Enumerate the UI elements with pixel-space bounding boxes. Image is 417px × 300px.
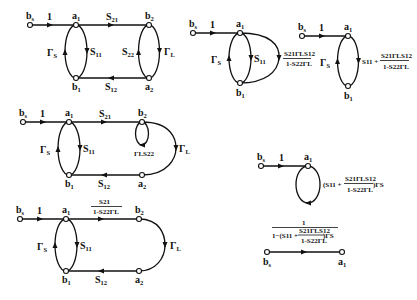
arrow-right-icon: [301, 250, 307, 255]
label-a2: a2: [138, 178, 146, 190]
label-a1: a1: [236, 18, 244, 30]
label-loop-prefix: (S11 +: [323, 181, 342, 189]
label-a2: a2: [145, 81, 153, 93]
label-b2: b2: [145, 10, 154, 22]
label-sum-numerator: S21ΓLS12: [381, 52, 412, 60]
label-S21-denominator: 1-S22ΓL: [93, 208, 119, 216]
label-a1: a1: [65, 107, 73, 119]
arrow-down-icon: [78, 145, 83, 151]
label-self-loop-gain: ΓLS22: [134, 150, 155, 158]
loop-a1-b1: [55, 219, 77, 271]
arrow-down-icon: [75, 242, 80, 248]
arrow-right-icon: [47, 23, 53, 28]
label-GammaS: ΓS: [211, 54, 221, 66]
arrow-left-icon: [101, 173, 107, 178]
node-b1: [238, 81, 243, 86]
label-S22: S22: [122, 46, 134, 58]
label-gain-1: 1: [319, 22, 324, 33]
loop-a1-b1: [338, 36, 359, 86]
node-a2: [147, 76, 152, 81]
arrow-right-icon: [319, 34, 325, 39]
arrow-right-icon: [98, 217, 104, 222]
node-a1: [64, 217, 69, 222]
arrow-right-icon: [210, 31, 216, 36]
self-loop-b2: [136, 122, 149, 145]
arrow-left-icon: [108, 76, 114, 81]
node-a1: [74, 23, 79, 28]
label-GammaS: ΓS: [47, 47, 57, 59]
label-S11: S11: [83, 143, 95, 155]
label-S11: S11: [90, 46, 102, 58]
arrow-up-icon: [53, 242, 58, 248]
node-b1: [67, 173, 72, 178]
loop-b2-a2: [139, 25, 160, 78]
self-loop-a1: [296, 166, 320, 203]
label-GammaS: ΓS: [37, 241, 47, 253]
label-b1: b1: [65, 178, 74, 190]
label-GammaL: ΓL: [179, 143, 190, 155]
arrow-down-icon: [174, 145, 179, 151]
label-gain-1: 1: [210, 19, 215, 30]
label-bs: bs: [298, 21, 307, 33]
node-bs: [18, 217, 23, 222]
label-S21-numerator: S21: [99, 198, 110, 206]
node-a1: [306, 164, 311, 169]
label-transfer-den-suffix: )ΓS: [323, 232, 334, 240]
arrow-down-icon: [163, 242, 168, 248]
node-a1: [340, 250, 345, 255]
diagram-final-transfer: 1 1−(S11 + S21ΓLS12 1-S22ΓL )ΓS bs a1: [263, 219, 346, 268]
label-loop-denominator: 1-S22ΓL: [347, 186, 373, 194]
label-gain-1: 1: [40, 108, 45, 119]
label-a1: a1: [338, 256, 346, 268]
label-b2: b2: [135, 204, 144, 216]
label-bs: bs: [189, 18, 198, 30]
label-loop-suffix: )ΓS: [373, 181, 384, 189]
diagram-reduced-combined-loop: bs 1 a1 S11 ΓS S21ΓLS12 1-S22ΓL b1: [189, 18, 315, 99]
label-transfer-den-prefix: 1−(S11 +: [272, 232, 298, 240]
node-bs: [300, 34, 305, 39]
node-a2: [140, 173, 145, 178]
label-sum-denominator: 1-S22ΓL: [383, 63, 409, 71]
node-bs: [265, 250, 270, 255]
arrow-right-icon: [108, 23, 114, 28]
label-GammaS: ΓS: [320, 57, 330, 69]
node-b2: [147, 23, 152, 28]
diagram-self-loop-removed: bs 1 a1 S21 1-S22ΓL b2 S11 ΓS ΓL b1 S12 …: [16, 198, 181, 286]
label-gain-1: 1: [279, 152, 284, 163]
node-a2: [137, 269, 142, 274]
label-b1: b1: [344, 90, 353, 102]
arrow-up-icon: [335, 58, 340, 64]
arrow-right-icon: [101, 120, 107, 125]
diagram-full-signal-flow: bs 1 a1 S21 b2 S11 ΓS S22 ΓL b1 S12 a2: [26, 10, 175, 93]
label-loop-numerator: S21ΓLS12: [345, 175, 376, 183]
label-GammaS: ΓS: [40, 144, 50, 156]
label-b1: b1: [62, 274, 71, 286]
arrow-right-icon: [40, 120, 46, 125]
label-S21: S21: [99, 108, 111, 120]
label-sum-prefix: S11 +: [362, 58, 378, 66]
node-b1: [64, 269, 69, 274]
arrow-down-icon: [157, 48, 162, 54]
label-bs: bs: [263, 256, 272, 268]
label-parallel-denominator: 1-S22ΓL: [286, 60, 312, 68]
label-a1: a1: [62, 204, 70, 216]
diagram-single-self-loop-a1: bs 1 a1 (S11 + S21ΓLS12 1-S22ΓL )ΓS: [257, 151, 384, 206]
arrow-right-icon: [278, 164, 284, 169]
arrow-down-icon: [356, 58, 361, 64]
arrow-right-icon: [37, 217, 43, 222]
node-bs: [28, 23, 33, 28]
node-bs: [259, 164, 264, 169]
arrow-up-icon: [63, 49, 68, 55]
label-a1: a1: [344, 21, 352, 33]
label-S12: S12: [95, 274, 107, 286]
label-GammaL: ΓL: [170, 240, 181, 252]
label-bs: bs: [19, 107, 28, 119]
arrow-up-icon: [136, 49, 141, 55]
edge-GammaL-arc: [139, 219, 165, 271]
arrow-up-icon: [56, 146, 61, 152]
label-S11: S11: [80, 240, 92, 252]
label-S12: S12: [105, 81, 117, 93]
node-a1: [67, 120, 72, 125]
label-bs: bs: [26, 10, 35, 22]
label-gain-1: 1: [37, 205, 42, 216]
